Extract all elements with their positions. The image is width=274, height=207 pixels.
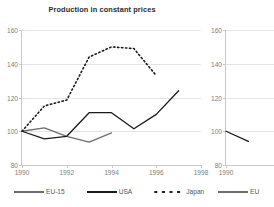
legend-item-next-eu: EU xyxy=(218,188,259,195)
chart-panel-production: Production in constant prices 160 140 12… xyxy=(0,0,204,207)
plot-area-next: 160 140 120 100 80 1990 xyxy=(225,30,274,166)
ytick-label-120: 120 xyxy=(7,94,18,101)
chart-legend-next: EU xyxy=(218,188,274,195)
ytick-label-100: 100 xyxy=(7,128,18,135)
xtick-label-1992: 1992 xyxy=(59,169,74,176)
line-swatch-gray-solid-icon xyxy=(14,189,44,195)
xtick-mark-1994 xyxy=(112,165,113,168)
xtick-mark-next-1990 xyxy=(226,165,227,168)
legend-label-japan: Japan xyxy=(186,188,204,195)
legend-label-next-eu: EU xyxy=(250,188,259,195)
chart-page: Production in constant prices 160 140 12… xyxy=(0,0,274,207)
legend-label-eu-15: EU-15 xyxy=(46,188,65,195)
xtick-label-1990: 1990 xyxy=(15,169,30,176)
legend-item-eu-15: EU-15 xyxy=(14,188,65,195)
xtick-label-1994: 1994 xyxy=(104,169,119,176)
line-swatch-black-dotted-icon xyxy=(154,189,184,195)
legend-label-usa: USA xyxy=(119,188,133,195)
xtick-label-1996: 1996 xyxy=(149,169,164,176)
ytick-label-next-120: 120 xyxy=(211,94,222,101)
series-canvas xyxy=(22,30,201,165)
series-canvas-next xyxy=(226,30,274,165)
ytick-label-next-140: 140 xyxy=(211,60,222,67)
chart-legend: EU-15 USA Japan xyxy=(14,188,204,195)
ytick-label-140: 140 xyxy=(7,60,18,67)
ytick-label-80: 80 xyxy=(11,162,18,169)
series-line-usa xyxy=(22,91,179,139)
line-swatch-black-solid-icon xyxy=(87,189,117,195)
series-line-eu-15 xyxy=(22,128,112,142)
ytick-label-next-160: 160 xyxy=(211,27,222,34)
xtick-label-next-1990: 1990 xyxy=(219,169,234,176)
line-swatch-gray-solid-icon xyxy=(218,189,248,195)
legend-item-usa: USA xyxy=(87,188,133,195)
xtick-mark-1990 xyxy=(22,165,23,168)
xtick-mark-1996 xyxy=(156,165,157,168)
plot-area: 160 140 120 100 80 1990 1992 1994 1996 1… xyxy=(21,30,201,166)
legend-item-japan: Japan xyxy=(154,188,204,195)
chart-panel-next-clipped: 160 140 120 100 80 1990 xyxy=(204,0,274,207)
series-line-japan xyxy=(22,47,156,131)
ytick-label-next-80: 80 xyxy=(215,162,222,169)
series-line-next-eu xyxy=(226,131,248,141)
ytick-label-160: 160 xyxy=(7,27,18,34)
xtick-mark-1998 xyxy=(201,165,202,168)
xtick-mark-1992 xyxy=(67,165,68,168)
chart-title: Production in constant prices xyxy=(0,5,204,14)
ytick-label-next-100: 100 xyxy=(211,128,222,135)
